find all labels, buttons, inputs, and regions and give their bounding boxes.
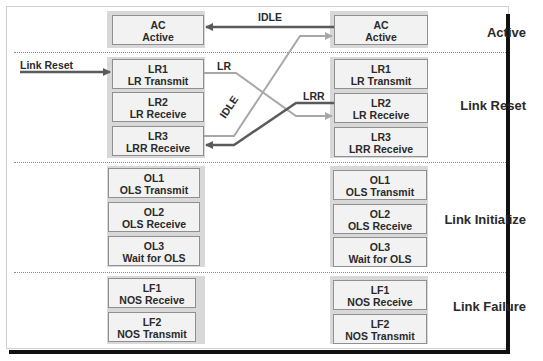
lrr-label: LRR [303,90,325,102]
link-reset-input-label: Link Reset [20,59,73,71]
lr-label: LR [217,60,231,72]
idle-top-label: IDLE [258,11,282,23]
transition-arrows [0,0,543,361]
